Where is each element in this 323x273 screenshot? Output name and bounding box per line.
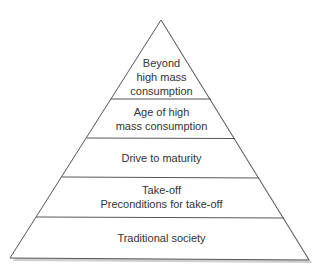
level-label: consumption [0,84,323,98]
level-age-of-high-mass-consumption: Age of high mass consumption [0,105,323,133]
level-take-off: Take-off Preconditions for take-off [0,183,323,211]
level-label: Preconditions for take-off [0,197,323,211]
level-label: Drive to maturity [0,151,323,165]
level-label: Traditional society [0,231,323,245]
level-label: high mass [0,70,323,84]
level-label: Take-off [0,183,323,197]
level-label: Beyond [0,56,323,70]
divider-2 [87,138,235,139]
level-label: mass consumption [0,119,323,133]
level-beyond-high-mass-consumption: Beyond high mass consumption [0,56,323,98]
level-label: Age of high [0,105,323,119]
level-traditional-society: Traditional society [0,231,323,245]
level-drive-to-maturity: Drive to maturity [0,151,323,165]
